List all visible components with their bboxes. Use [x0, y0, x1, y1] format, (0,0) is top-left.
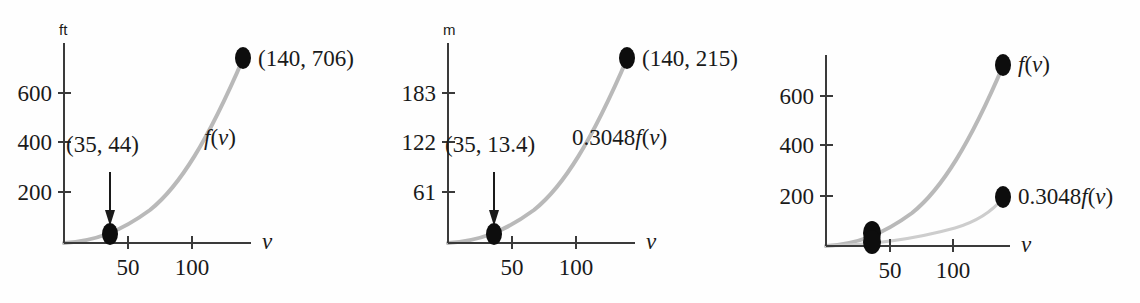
curve-label-scaled-f-v: 0.3048f(v)	[572, 126, 667, 149]
series-label-s-v: v	[1095, 184, 1105, 209]
x-tick-label-100: 100	[546, 256, 606, 279]
x-tick-label-100: 100	[162, 256, 222, 279]
y-tick-label-400: 400	[0, 131, 52, 154]
y-tick-label-200: 200	[0, 181, 52, 204]
x-tick-label-50: 50	[488, 256, 536, 279]
y-tick-label-600: 600	[0, 82, 52, 105]
annotation-low-point: (35, 13.4)	[445, 133, 535, 156]
y-axis-unit-label: m	[443, 22, 456, 37]
series-label-scaled-f-v: 0.3048f(v)	[1018, 185, 1113, 208]
series-label-f-v: f(v)	[1018, 53, 1050, 76]
curve-label-open: (	[210, 125, 218, 150]
curve-scaled-f-v	[826, 198, 1003, 246]
data-marker-high	[619, 47, 635, 69]
series-label-s-prefix: 0.3048	[1018, 184, 1081, 209]
curve-label-v: v	[218, 125, 228, 150]
x-tick-label-50: 50	[866, 259, 914, 282]
data-marker-low-scaled	[863, 230, 881, 254]
y-tick-label-61: 61	[380, 181, 436, 204]
y-tick-label-122: 122	[380, 131, 436, 154]
y-tick-label-600: 600	[760, 85, 814, 108]
x-axis-label: v	[1021, 233, 1031, 256]
data-marker-low	[486, 223, 502, 245]
annotation-high-point: (140, 215)	[642, 47, 738, 70]
curve-label-close: )	[660, 125, 668, 150]
data-marker-high-f	[995, 54, 1011, 76]
annotation-low-point: (35, 44)	[66, 133, 139, 156]
x-axis-label: v	[646, 230, 656, 253]
x-axis-label: v	[262, 230, 272, 253]
curve-label-f-v: f(v)	[204, 126, 236, 149]
curve-label-close: )	[228, 125, 236, 150]
y-tick-label-400: 400	[760, 134, 814, 157]
x-tick-label-100: 100	[923, 259, 983, 282]
series-label-f-open: (	[1024, 52, 1032, 77]
curve-label-v: v	[649, 125, 659, 150]
figure-three-panel-unit-conversion: ft 600 400 200 50 100 v (35, 44) (140, 7…	[0, 0, 1140, 303]
data-marker-high	[235, 47, 251, 69]
annotation-high-point: (140, 706)	[258, 47, 354, 70]
y-tick-label-183: 183	[380, 82, 436, 105]
series-label-f-close: )	[1042, 52, 1050, 77]
x-tick-label-50: 50	[104, 256, 152, 279]
y-axis-unit-label: ft	[59, 22, 67, 37]
data-marker-low	[102, 223, 118, 245]
data-marker-high-scaled	[995, 186, 1011, 208]
series-label-f-v: v	[1032, 52, 1042, 77]
chart-panel-1: ft 600 400 200 50 100 v (35, 44) (140, 7…	[0, 0, 380, 303]
chart-panel-2: m 183 122 61 50 100 v (35, 13.4) (140, 2…	[380, 0, 760, 303]
series-label-s-close: )	[1106, 184, 1114, 209]
chart-panel-3: 600 400 200 50 100 v f(v) 0.3048f(v)	[760, 0, 1140, 303]
curve-label-prefix: 0.3048	[572, 125, 635, 150]
y-tick-label-200: 200	[760, 185, 814, 208]
